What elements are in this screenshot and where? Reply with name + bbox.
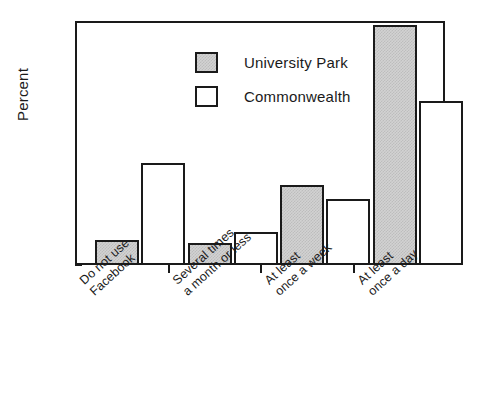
legend-label-university-park: University Park [244, 54, 348, 71]
legend-entry: University Park [195, 45, 351, 79]
x-separator-tick [353, 265, 355, 273]
bar [373, 25, 417, 265]
plot-area: University Park Commonwealth [75, 21, 445, 265]
legend-label-commonwealth: Commonwealth [244, 88, 351, 105]
y-axis-title: Percent [14, 35, 31, 155]
x-separator-tick [260, 265, 262, 273]
chart-legend: University Park Commonwealth [195, 45, 351, 113]
bar [326, 199, 370, 265]
bar [141, 163, 185, 265]
legend-entry: Commonwealth [195, 79, 351, 113]
legend-swatch-university-park [195, 52, 218, 73]
x-separator-tick [168, 265, 170, 273]
legend-swatch-commonwealth [195, 86, 218, 107]
bar [419, 101, 463, 265]
bar-chart: Percent 0102030405060 University Park Co… [0, 0, 479, 399]
